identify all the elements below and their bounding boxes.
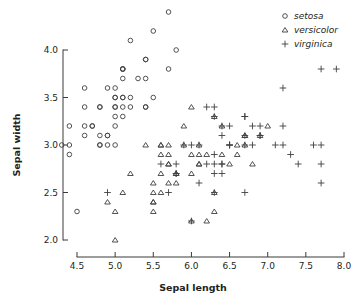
data-point <box>226 123 233 130</box>
data-point <box>318 161 325 168</box>
data-point <box>98 143 103 148</box>
data-point <box>181 124 187 128</box>
legend-label-virginica: virginica <box>294 39 332 49</box>
x-tick-label: 7.5 <box>299 261 313 271</box>
data-point <box>211 209 217 213</box>
data-point <box>113 95 118 100</box>
data-point <box>280 123 287 130</box>
data-point <box>120 67 125 72</box>
legend-label-setosa: setosa <box>294 11 323 21</box>
x-axis: 4.55.05.56.06.57.07.58.0 <box>70 252 352 271</box>
data-point <box>105 143 110 148</box>
data-point <box>318 142 325 149</box>
data-point <box>128 171 134 175</box>
data-point <box>219 170 226 177</box>
x-tick-label: 5.5 <box>146 261 160 271</box>
data-point <box>280 85 287 92</box>
series-setosa <box>59 10 178 214</box>
y-tick-label: 2.0 <box>44 235 59 245</box>
data-point <box>105 200 111 204</box>
data-point <box>143 76 148 81</box>
data-point <box>219 132 226 139</box>
data-point <box>280 142 287 149</box>
data-point <box>120 105 125 110</box>
data-point <box>113 124 118 129</box>
data-point <box>318 66 325 73</box>
data-point <box>104 189 111 196</box>
data-point <box>173 161 180 168</box>
data-point <box>158 161 165 168</box>
data-point <box>196 162 202 166</box>
data-point <box>150 181 156 185</box>
legend-label-versicolor: versicolor <box>294 25 339 35</box>
data-point <box>82 133 87 138</box>
data-point <box>67 124 72 129</box>
data-point <box>241 113 248 120</box>
data-point <box>112 209 118 213</box>
data-point <box>272 142 279 149</box>
x-axis-title: Sepal length <box>159 282 227 293</box>
data-point <box>82 105 87 110</box>
data-point <box>143 143 149 147</box>
data-point <box>211 151 218 158</box>
y-tick-label: 2.5 <box>44 188 58 198</box>
data-point <box>219 152 225 156</box>
data-point <box>234 143 240 147</box>
data-point <box>166 152 172 156</box>
data-point <box>82 124 87 129</box>
data-point <box>310 142 317 149</box>
data-point <box>203 104 210 111</box>
data-point <box>211 161 218 168</box>
data-point <box>318 180 325 187</box>
data-point <box>211 170 218 177</box>
data-point <box>203 161 210 168</box>
legend: setosaversicolorvirginica <box>282 11 340 49</box>
data-point <box>143 57 148 62</box>
x-tick-label: 8.0 <box>337 261 352 271</box>
data-point <box>166 162 172 166</box>
x-tick-label: 7.0 <box>261 261 276 271</box>
data-point <box>196 180 203 187</box>
data-point <box>204 219 210 223</box>
data-point <box>67 152 72 157</box>
data-point <box>120 190 126 194</box>
data-point <box>265 124 271 128</box>
data-point <box>113 114 118 119</box>
y-tick-label: 3.0 <box>44 140 59 150</box>
data-point <box>82 86 87 91</box>
data-point <box>250 162 256 166</box>
data-point <box>158 143 164 147</box>
data-point <box>196 152 202 156</box>
data-point <box>287 151 294 158</box>
data-point <box>158 171 164 175</box>
scatter-plot-figure: 2.02.53.03.54.0 4.55.05.56.06.57.07.58.0… <box>0 0 361 301</box>
data-point <box>234 152 240 156</box>
data-point <box>173 181 179 185</box>
data-point <box>189 105 195 109</box>
data-point <box>249 142 256 149</box>
data-point <box>150 209 156 213</box>
data-point <box>75 209 80 214</box>
data-point <box>257 123 264 130</box>
data-point <box>211 104 218 111</box>
data-point <box>98 105 103 110</box>
data-point <box>150 200 156 204</box>
y-tick-label: 3.5 <box>44 93 58 103</box>
data-point <box>188 142 195 149</box>
data-point <box>158 152 164 156</box>
data-point <box>226 142 233 149</box>
data-point <box>143 105 148 110</box>
data-point <box>105 86 110 91</box>
data-point <box>113 86 118 91</box>
data-point <box>120 95 125 100</box>
data-point <box>112 238 118 242</box>
triangle-marker <box>282 28 288 32</box>
data-point <box>333 66 340 73</box>
data-point <box>166 181 172 185</box>
data-point <box>227 162 233 166</box>
series-virginica <box>104 66 340 225</box>
data-point <box>105 133 110 138</box>
data-point <box>204 152 210 156</box>
plus-marker <box>282 41 289 48</box>
data-point <box>150 190 156 194</box>
